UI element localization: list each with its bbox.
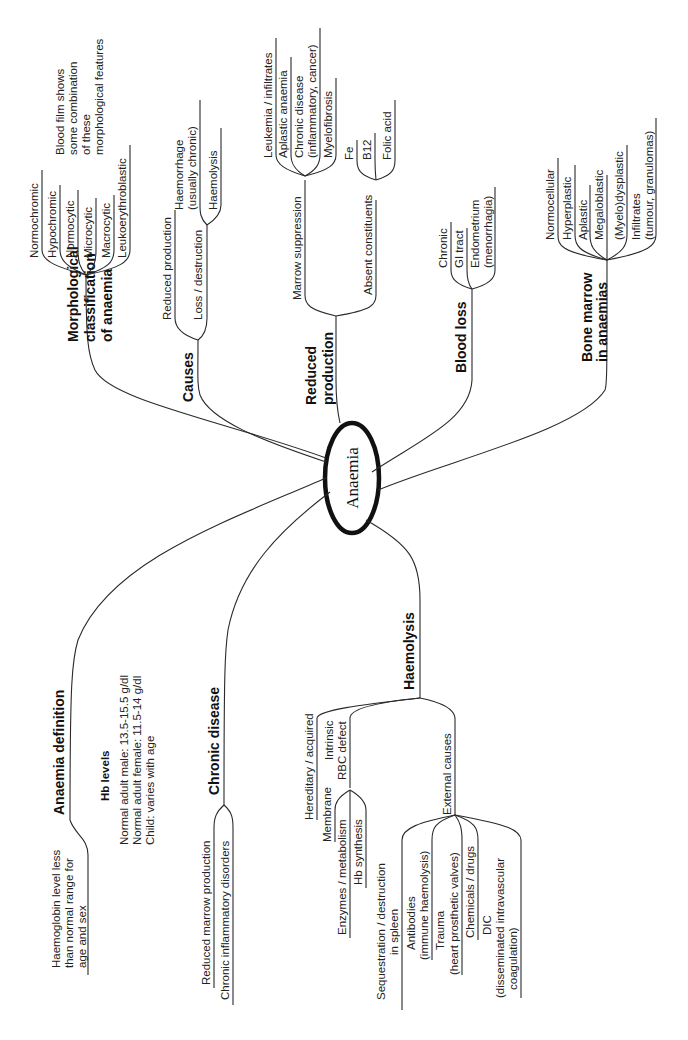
branch-bone-marrow: Bone marrow in anaemias Normocellular Hy…	[378, 118, 656, 490]
causes-item-loss: Loss / destruction	[192, 230, 204, 320]
absent-constituents-label: Absent constituents	[362, 194, 374, 295]
definition-line: than normal range for	[63, 858, 75, 968]
morph-item-hypochromic: Hypochromic	[46, 191, 58, 258]
intrinsic-label-line: RBC defect	[336, 720, 348, 780]
loss-child-line: (usually chronic)	[186, 126, 198, 210]
marrow-child-line: Chronic disease	[293, 76, 305, 158]
connector-line	[378, 260, 607, 490]
marrow-type-aplastic: Aplastic	[577, 199, 589, 240]
marrow-child-line: (inflammatory, cancer)	[306, 44, 318, 158]
fan-line	[375, 133, 376, 180]
marrow-type-dysplastic: (Myelo)dysplastic	[613, 151, 625, 240]
morph-note-line: morphological features	[93, 38, 105, 155]
external-child-line: (heart prosthetic valves)	[448, 852, 460, 975]
loss-child-haemolysis: Haemolysis	[207, 150, 219, 210]
marrow-child-line: Leukemia / infiltrates	[262, 52, 274, 158]
morph-item-normocytic: Normocytic	[64, 200, 76, 258]
morph-item-normochromic: Normochromic	[28, 183, 40, 258]
branch-title-line: Bone marrow	[579, 272, 595, 362]
external-label: External causes	[441, 733, 453, 815]
external-child-line: DIC	[481, 915, 493, 935]
intrinsic-child-hb: Hb synthesis	[352, 819, 364, 885]
external-child-line: (disseminated intravascular	[494, 858, 506, 998]
external-child-line: Trauma	[434, 910, 446, 950]
marrow-child-line: Myelofibrosis	[322, 91, 334, 158]
connector-line	[86, 275, 326, 458]
external-child-line: coagulation)	[507, 927, 519, 990]
external-child-line: Chemicals / drugs	[464, 846, 476, 938]
blood-loss-endometrium: Endometrium	[469, 200, 481, 268]
morph-item-leukoerythroblastic: Leukoerythroblastic	[116, 158, 128, 258]
branch-title-line: of anaemia	[99, 269, 115, 342]
external-child-line: Antibodies	[405, 896, 417, 950]
connector-line	[336, 316, 340, 423]
hb-level-line: Child: varies with age	[144, 736, 156, 845]
absent-child-b12: B12	[361, 140, 373, 160]
definition-line: age and sex	[76, 905, 88, 968]
intrinsic-child-enzymes: Enzymes / metabolism	[336, 819, 348, 935]
branch-title: Haemolysis	[401, 612, 417, 690]
mind-map-svg: Anaemia Morphological classification of …	[0, 0, 688, 1040]
morph-note-line: of these	[80, 114, 92, 155]
branch-title-line: Reduced	[303, 346, 319, 405]
chronic-child-inflammatory: Chronic inflammatory disorders	[219, 841, 231, 1000]
branch-definition: Anaemia definition Haemoglobin level les…	[50, 478, 326, 975]
branch-title: Anaemia definition	[51, 690, 67, 815]
absent-child-fe: Fe	[343, 147, 355, 160]
marrow-type-hyperplastic: Hyperplastic	[561, 176, 573, 240]
external-child-line: Sequestration / destruction	[375, 863, 387, 1000]
loss-child-line: Haemorrhage	[173, 140, 185, 210]
center-node: Anaemia	[325, 423, 379, 533]
center-label: Anaemia	[343, 447, 362, 509]
connector-line	[70, 478, 326, 975]
blood-loss-menorrhagia: (menorrhagia)	[482, 196, 494, 268]
marrow-type-normocellular: Normocellular	[544, 169, 556, 240]
intrinsic-child-membrane: Membrane	[321, 787, 333, 842]
fan-line	[200, 100, 207, 225]
hb-level-line: Normal adult female: 11.5-14 g/dl	[131, 676, 143, 845]
external-child-line: (immune haemolysis)	[418, 851, 430, 960]
fan-line	[305, 180, 336, 316]
marrow-type-megaloblastic: Megaloblastic	[593, 169, 605, 240]
branch-title-line: classification	[82, 253, 98, 342]
intrinsic-label-line: Intrinsic	[323, 720, 335, 760]
branch-title: Causes	[180, 352, 196, 402]
marrow-suppression-label: Marrow suppression	[291, 196, 303, 300]
branch-title-line: in anaemias	[594, 282, 610, 362]
marrow-type-infiltrates: Infiltrates	[630, 193, 642, 240]
chronic-child-reduced: Reduced marrow production	[200, 841, 212, 985]
external-child-line: in spleen	[388, 909, 400, 955]
hereditary-label: Hereditary / acquired	[303, 713, 315, 820]
morph-item-macrocytic: Macrocytic	[100, 203, 112, 258]
branch-blood-loss: Blood loss Chronic GI tract Endometrium …	[372, 187, 495, 472]
marrow-child-line: Aplastic anaemia	[277, 70, 289, 158]
branch-title-line: production	[320, 332, 336, 405]
morph-item-microcytic: Microcytic	[82, 207, 94, 258]
blood-loss-chronic: Chronic	[437, 228, 449, 268]
branch-reduced-production: Reduced production Marrow suppression Ab…	[262, 28, 395, 423]
causes-item-reduced: Reduced production	[161, 217, 173, 320]
branch-title: Chronic disease	[206, 687, 222, 795]
fan-line	[350, 698, 420, 788]
morph-note-line: some combination	[67, 62, 79, 155]
branch-haemolysis: Haemolysis Hereditary / acquired Intrins…	[303, 520, 521, 1010]
absent-child-folic: Folic acid	[381, 111, 393, 160]
mind-map-canvas: Anaemia Morphological classification of …	[0, 0, 688, 1040]
hb-level-line: Normal adult male: 13.5-15.5 g/dl	[118, 675, 130, 845]
definition-line: Haemoglobin level less	[50, 849, 62, 968]
hb-levels-title: Hb levels	[99, 751, 111, 802]
branch-title: Blood loss	[453, 301, 469, 373]
marrow-type-infiltrates-detail: (tumour, granulomas)	[643, 131, 655, 240]
morph-note-line: Blood film shows	[54, 68, 66, 155]
blood-loss-gi: GI tract	[453, 229, 465, 268]
